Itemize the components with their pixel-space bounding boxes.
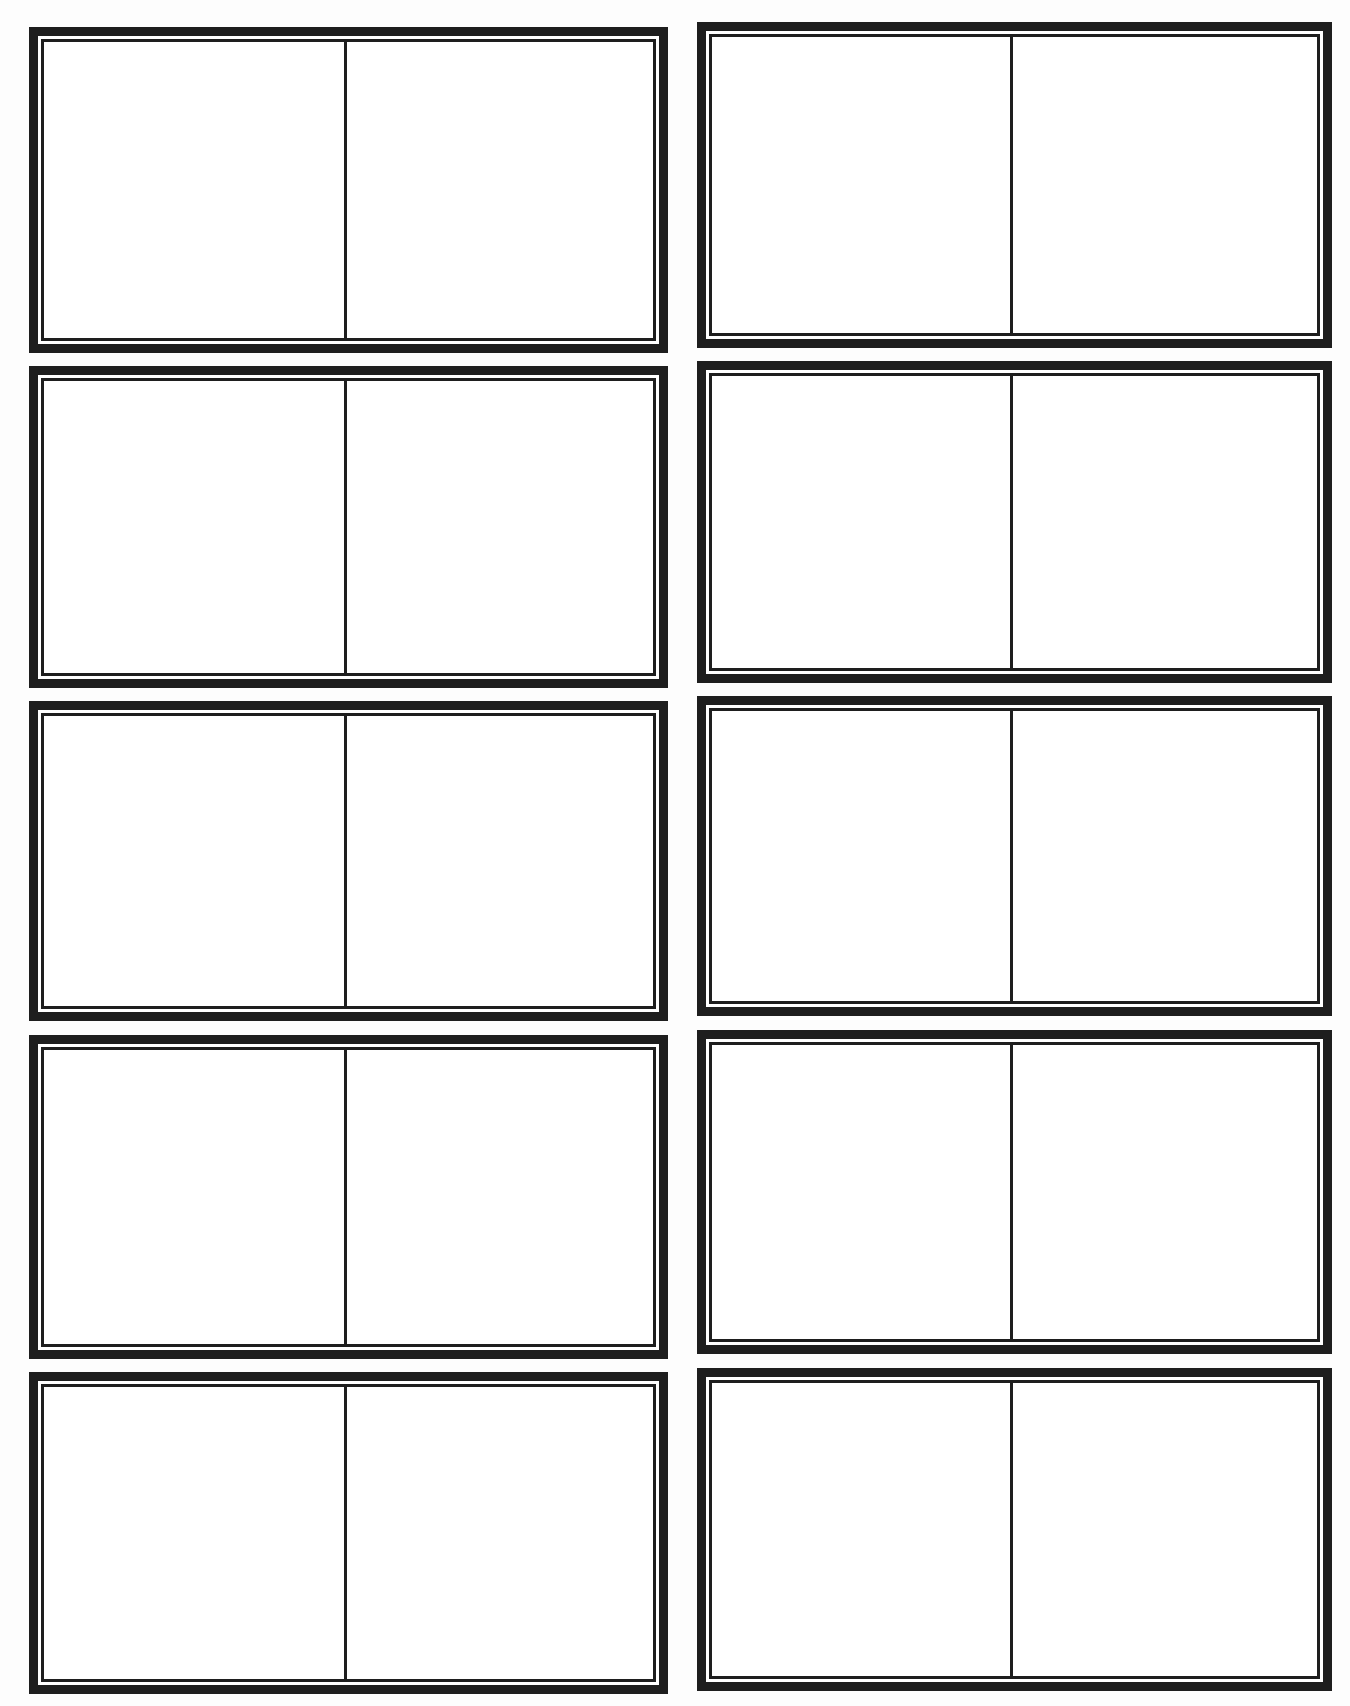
card-right-panel <box>347 716 653 1006</box>
card-inner-frame <box>41 378 656 676</box>
blank-card <box>697 1030 1332 1354</box>
blank-card <box>29 1035 668 1359</box>
card-inner-frame <box>709 373 1320 671</box>
card-left-panel <box>44 1387 343 1679</box>
blank-card <box>697 1368 1332 1691</box>
card-left-panel <box>44 1050 343 1344</box>
card-right-panel <box>347 381 653 673</box>
blank-card <box>697 696 1332 1016</box>
blank-card <box>29 701 668 1021</box>
card-inner-frame <box>709 1042 1320 1342</box>
card-inner-frame <box>41 1384 656 1682</box>
card-left-panel <box>44 716 343 1006</box>
card-left-panel <box>712 1045 1009 1339</box>
card-right-panel <box>347 42 653 338</box>
card-inner-frame <box>41 39 656 341</box>
card-right-panel <box>1013 1045 1317 1339</box>
card-inner-frame <box>41 1047 656 1347</box>
card-right-panel <box>1013 711 1317 1001</box>
card-inner-frame <box>41 713 656 1009</box>
card-right-panel <box>1013 1383 1317 1676</box>
blank-card <box>29 27 668 353</box>
card-left-panel <box>44 381 343 673</box>
blank-card <box>697 22 1332 348</box>
card-inner-frame <box>709 708 1320 1004</box>
card-left-panel <box>712 1383 1009 1676</box>
blank-card <box>29 366 668 688</box>
blank-card <box>697 361 1332 683</box>
card-left-panel <box>44 42 343 338</box>
card-right-panel <box>1013 376 1317 668</box>
card-right-panel <box>1013 37 1317 333</box>
card-inner-frame <box>709 34 1320 336</box>
card-template-sheet <box>0 0 1350 1706</box>
card-left-panel <box>712 711 1009 1001</box>
card-right-panel <box>347 1050 653 1344</box>
card-inner-frame <box>709 1380 1320 1679</box>
card-left-panel <box>712 37 1009 333</box>
blank-card <box>29 1372 668 1694</box>
card-right-panel <box>347 1387 653 1679</box>
card-left-panel <box>712 376 1009 668</box>
